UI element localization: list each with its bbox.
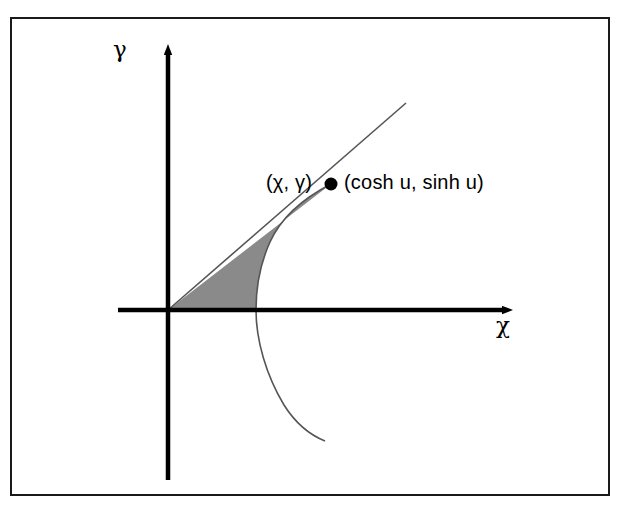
hyperbolic-sector-shaded-region: [168, 184, 331, 310]
x-axis-label: χ: [496, 314, 510, 337]
point-coordinate-label: (χ, γ): [266, 172, 312, 192]
figure-root: γ χ (χ, γ) (cosh u, sinh u): [0, 0, 620, 511]
y-axis-label: γ: [113, 38, 127, 61]
hyperbolic-sector-plot: [0, 0, 620, 511]
point-marker-dot: [325, 178, 338, 191]
ray-from-origin-through-point: [168, 103, 406, 310]
point-formula-label: (cosh u, sinh u): [344, 172, 484, 192]
hyperbola-curve: [256, 184, 331, 441]
